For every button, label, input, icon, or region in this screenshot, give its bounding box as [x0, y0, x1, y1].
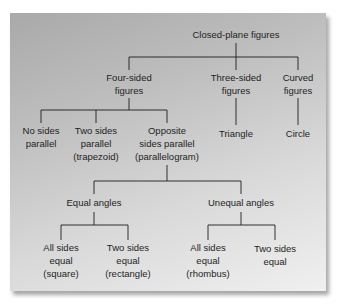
node-label: Two sides: [105, 241, 150, 254]
node-equal-angles: Equal angles: [67, 196, 122, 209]
node-four-sided-figures: Four-sided figures: [106, 71, 151, 97]
node-label: sides parallel: [135, 137, 199, 150]
node-label: Four-sided: [106, 71, 151, 84]
node-label: Curved: [283, 71, 314, 84]
node-label: parallel: [23, 137, 60, 150]
node-label: equal: [43, 254, 78, 267]
node-label: equal: [105, 254, 150, 267]
node-three-sided-figures: Three-sided figures: [211, 71, 262, 97]
node-label: Circle: [286, 127, 310, 140]
node-label: No sides: [23, 124, 60, 137]
node-no-sides-parallel: No sides parallel: [23, 124, 60, 150]
node-label: All sides: [43, 241, 78, 254]
node-unequal-angles: Unequal angles: [208, 196, 274, 209]
node-label: All sides: [186, 241, 229, 254]
node-label: Opposite: [135, 124, 199, 137]
node-closed-plane-figures: Closed-plane figures: [192, 28, 279, 41]
node-label: (parallelogram): [135, 150, 199, 163]
node-label: Equal angles: [67, 196, 122, 209]
node-label: Closed-plane figures: [192, 28, 279, 41]
node-square: All sides equal (square): [43, 241, 78, 280]
node-label: (square): [43, 267, 78, 280]
node-label: equal: [186, 254, 229, 267]
node-label: Triangle: [219, 127, 253, 140]
node-label: Unequal angles: [208, 196, 274, 209]
node-label: figures: [211, 84, 262, 97]
node-rectangle: Two sides equal (rectangle): [105, 241, 150, 280]
node-label: Two sides: [73, 124, 118, 137]
node-label: figures: [106, 84, 151, 97]
node-label: (trapezoid): [73, 150, 118, 163]
node-label: Three-sided: [211, 71, 262, 84]
node-curved-figures: Curved figures: [283, 71, 314, 97]
node-label: (rhombus): [186, 267, 229, 280]
node-trapezoid: Two sides parallel (trapezoid): [73, 124, 118, 163]
node-label: equal: [254, 255, 296, 268]
node-label: parallel: [73, 137, 118, 150]
node-rhombus: All sides equal (rhombus): [186, 241, 229, 280]
node-triangle: Triangle: [219, 127, 253, 140]
node-label: (rectangle): [105, 267, 150, 280]
node-parallelogram: Opposite sides parallel (parallelogram): [135, 124, 199, 163]
node-circle: Circle: [286, 127, 310, 140]
node-two-sides-equal: Two sides equal: [254, 242, 296, 268]
node-label: figures: [283, 84, 314, 97]
node-label: Two sides: [254, 242, 296, 255]
